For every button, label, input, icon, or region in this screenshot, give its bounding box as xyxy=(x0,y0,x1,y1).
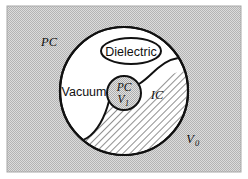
dielectric-label: Dielectric xyxy=(105,45,156,59)
inner-volume-subscript: 1 xyxy=(125,99,129,108)
vacuum-label: Vacuum xyxy=(62,85,107,99)
inner-pc-label: PC xyxy=(116,81,132,93)
ic-label: IC xyxy=(150,88,164,102)
set-diagram-figure: Dielectric Vacuum IC PC V 1 PC V 0 xyxy=(0,0,248,179)
figure-page: Dielectric Vacuum IC PC V 1 PC V 0 xyxy=(0,0,248,179)
outer-pc-label: PC xyxy=(40,35,58,49)
